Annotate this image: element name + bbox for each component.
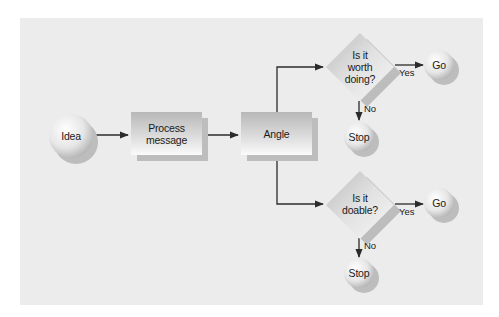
process-label-line2: message: [146, 134, 187, 146]
process-label-line1: Process: [148, 122, 185, 134]
doable-yes-label: Yes: [399, 206, 415, 217]
angle-label: Angle: [241, 112, 312, 155]
doable-decision-label: Is it doable?: [330, 190, 390, 218]
worth-go-label: Go: [424, 57, 454, 73]
worth-yes-label: Yes: [399, 67, 415, 78]
worth-label-line2: worth: [348, 61, 373, 73]
edge-angle-worth: [277, 67, 323, 112]
idea-label: Idea: [49, 128, 93, 144]
worth-decision-label: Is it worth doing?: [330, 46, 390, 88]
doable-label-line2: doable?: [342, 204, 378, 216]
worth-no-label: No: [364, 103, 376, 114]
worth-stop-label: Stop: [344, 129, 374, 145]
doable-go-label: Go: [424, 195, 454, 211]
worth-label-line1: Is it: [352, 49, 367, 61]
worth-label-line3: doing?: [345, 73, 375, 85]
process-message-label: Process message: [131, 112, 202, 155]
doable-no-label: No: [364, 240, 376, 251]
flowchart-canvas: [0, 0, 499, 317]
doable-label-line1: Is it: [352, 192, 367, 204]
edge-angle-doable: [277, 155, 323, 204]
doable-stop-label: Stop: [344, 265, 374, 281]
